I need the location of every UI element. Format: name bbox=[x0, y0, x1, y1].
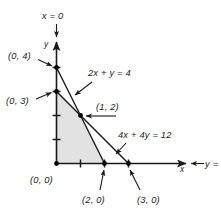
label-point-3-0: (3, 0) bbox=[137, 195, 160, 205]
label-x-equals-zero: x = 0 bbox=[41, 11, 64, 21]
leader-point-2-0 bbox=[100, 170, 104, 190]
point-marker-0-0 bbox=[54, 161, 59, 166]
label-point-0-3: (0, 3) bbox=[6, 96, 29, 106]
leader-point-0-4 bbox=[38, 60, 52, 67]
label-point-1-2: (1, 2) bbox=[96, 102, 119, 112]
point-marker-1-2 bbox=[78, 113, 83, 118]
leader-line-4x-plus-4y-equals-12 bbox=[116, 143, 126, 154]
label-line-4x-plus-4y-equals-12: 4x + 4y = 12 bbox=[118, 130, 172, 140]
label-point-0-0: (0, 0) bbox=[30, 175, 53, 185]
leader-line-2x-plus-y-equals-4 bbox=[75, 82, 92, 95]
label-point-2-0: (2, 0) bbox=[82, 195, 105, 205]
point-marker-0-4 bbox=[54, 65, 59, 70]
point-marker-3-0 bbox=[126, 161, 131, 166]
leader-point-0-3 bbox=[36, 93, 52, 100]
leader-point-3-0 bbox=[130, 170, 140, 190]
label-point-0-4: (0, 4) bbox=[8, 51, 31, 61]
linear-programming-figure: x = 0 y x y = 0 (0, 4) (0, 3) 2x + y = 4… bbox=[0, 0, 221, 214]
point-marker-0-3 bbox=[54, 89, 59, 94]
label-y-axis: y bbox=[43, 40, 49, 49]
label-line-2x-plus-y-equals-4: 2x + y = 4 bbox=[87, 68, 131, 78]
point-marker-2-0 bbox=[102, 161, 107, 166]
feasible-region-chart: x = 0 y x y = 0 (0, 4) (0, 3) 2x + y = 4… bbox=[0, 0, 221, 214]
label-y-equals-zero: y = 0 bbox=[204, 159, 221, 169]
label-x-axis: x bbox=[179, 165, 185, 174]
